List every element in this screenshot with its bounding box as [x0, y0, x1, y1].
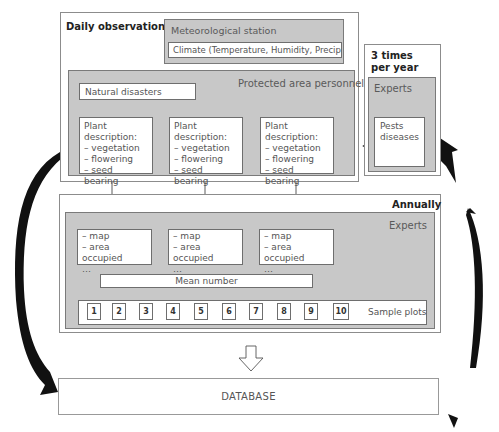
cycle-arrow-right-icon: [440, 138, 483, 428]
map-item: – area occupied: [173, 242, 238, 264]
plant-description-title: Plant description:: [265, 121, 329, 143]
sample-plot-7: 7: [249, 303, 263, 320]
hollow-down-arrow-icon: [239, 346, 263, 371]
sample-plot-2: 2: [112, 303, 126, 320]
plant-description-item: – flowering: [174, 154, 238, 165]
daily-observations-label: Daily observations: [66, 21, 171, 33]
three-times-label-line2: per year: [371, 62, 418, 74]
map-box-1: – map – area occupied …: [77, 229, 152, 265]
pests-diseases-box: Pests diseases: [374, 117, 425, 167]
map-box-2: – map – area occupied …: [168, 229, 243, 265]
climate-box: Climate (Temperature, Humidity, Precipit…: [168, 42, 342, 58]
sample-plots-label: Sample plots: [368, 307, 427, 318]
plant-description-title: Plant description:: [84, 121, 148, 143]
plant-description-title: Plant description:: [174, 121, 238, 143]
experts-label-three-times: Experts: [374, 83, 412, 94]
diseases-label: diseases: [380, 132, 419, 143]
three-times-label-line1: 3 times: [371, 50, 413, 62]
mean-number-box: Mean number: [100, 274, 313, 288]
protected-area-personnel-label: Protected area personnel: [238, 78, 364, 89]
map-item: – map: [264, 231, 329, 242]
map-item: – map: [173, 231, 238, 242]
sample-plot-10: 10: [333, 303, 349, 320]
sample-plot-8: 8: [277, 303, 291, 320]
plant-description-item: – seed bearing: [174, 165, 238, 187]
plant-description-box-2: Plant description: – vegetation – flower…: [169, 117, 243, 174]
sample-plot-6: 6: [222, 303, 236, 320]
plant-description-item: – flowering: [265, 154, 329, 165]
plant-description-item: – seed bearing: [84, 165, 148, 187]
plant-description-box-3: Plant description: – vegetation – flower…: [260, 117, 334, 174]
annually-label: Annually: [392, 199, 441, 211]
map-item: – area occupied: [82, 242, 147, 264]
plant-description-item: – seed bearing: [265, 165, 329, 187]
plant-description-item: – vegetation: [265, 143, 329, 154]
cycle-arrow-left-icon: [15, 152, 62, 395]
sample-plot-4: 4: [166, 303, 180, 320]
plant-description-item: – vegetation: [174, 143, 238, 154]
sample-plot-1: 1: [87, 303, 101, 320]
database-box: DATABASE: [58, 378, 439, 415]
meteorological-station-label: Meteorological station: [171, 25, 276, 36]
plant-description-box-1: Plant description: – vegetation – flower…: [79, 117, 153, 174]
map-item: – area occupied: [264, 242, 329, 264]
plant-description-item: – flowering: [84, 154, 148, 165]
map-box-3: – map – area occupied …: [259, 229, 334, 265]
sample-plot-9: 9: [304, 303, 318, 320]
sample-plot-3: 3: [139, 303, 153, 320]
sample-plot-5: 5: [194, 303, 208, 320]
natural-disasters-box: Natural disasters: [79, 83, 196, 100]
experts-label-annually: Experts: [389, 220, 427, 231]
plant-description-item: – vegetation: [84, 143, 148, 154]
map-item: – map: [82, 231, 147, 242]
pests-label: Pests: [380, 121, 419, 132]
